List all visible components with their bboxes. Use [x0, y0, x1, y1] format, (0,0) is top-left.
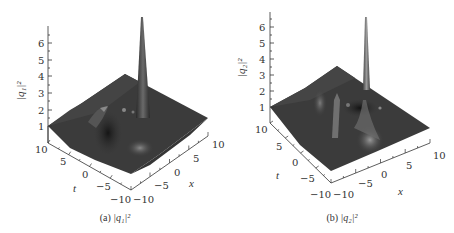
- z-tick: 1: [38, 121, 44, 132]
- x-tick: −10: [333, 189, 354, 200]
- z-axis-label: |q₁|²: [14, 81, 26, 100]
- panel-b: 1 2 3 4 5 6 |q₂|² 10 5 0 −5 −10 t −10 −5…: [230, 0, 454, 233]
- z-tick: 4: [38, 71, 44, 82]
- z-tick: 1: [259, 102, 265, 113]
- z-tick: 6: [38, 38, 44, 49]
- x-tick: −5: [154, 180, 169, 191]
- surface-b: [270, 66, 430, 171]
- panel-a: 1 2 3 4 5 6 |q₁|² 10 5 0 −5 −10 t −10 −5…: [0, 0, 230, 233]
- z-tick: 5: [259, 38, 265, 49]
- x-tick: 10: [433, 150, 446, 161]
- x-axis-label: x: [397, 185, 403, 197]
- caption-b: (b) |q₂|²: [230, 212, 454, 223]
- t-tick: 0: [82, 169, 88, 180]
- t-tick: 10: [255, 124, 268, 135]
- caption-variable: |q₂|²: [341, 212, 358, 223]
- x-tick: 0: [381, 169, 387, 180]
- peak-spike-b: [363, 17, 370, 90]
- z-tick: 3: [38, 88, 44, 99]
- t-axis-label: t: [276, 169, 280, 181]
- caption-a: (a) |q₁|²: [0, 212, 230, 223]
- t-axis-label: t: [73, 182, 77, 194]
- caption-variable: |q₁|²: [113, 212, 130, 223]
- z-axis-label: |q₂|²: [235, 58, 247, 77]
- t-tick: −5: [300, 173, 315, 184]
- x-tick: 10: [212, 139, 225, 150]
- t-tick: 5: [276, 141, 282, 152]
- surface-plot-b: 1 2 3 4 5 6 |q₂|² 10 5 0 −5 −10 t −10 −5…: [230, 0, 454, 233]
- x-tick: 0: [174, 167, 180, 178]
- peak-spike-a: [136, 17, 150, 118]
- x-tick: 5: [406, 160, 412, 171]
- t-tick: 5: [60, 156, 66, 167]
- x-tick: −5: [358, 178, 373, 189]
- x-tick: 5: [193, 153, 199, 164]
- z-tick: 2: [38, 105, 44, 116]
- z-tick: 3: [259, 70, 265, 81]
- z-tick: 2: [259, 86, 265, 97]
- t-tick: −10: [310, 189, 331, 200]
- caption-prefix: (a): [100, 212, 111, 223]
- x-tick: −10: [133, 194, 154, 205]
- surface-plot-a: 1 2 3 4 5 6 |q₁|² 10 5 0 −5 −10 t −10 −5…: [0, 0, 230, 233]
- t-tick: −5: [96, 181, 111, 192]
- t-tick: −10: [110, 194, 131, 205]
- z-tick: 4: [259, 54, 265, 65]
- z-tick: 5: [38, 55, 44, 66]
- z-tick: 6: [259, 22, 265, 33]
- t-tick: 0: [292, 157, 298, 168]
- caption-prefix: (b): [326, 212, 338, 223]
- x-axis-label: x: [188, 177, 194, 189]
- t-tick: 10: [35, 144, 48, 155]
